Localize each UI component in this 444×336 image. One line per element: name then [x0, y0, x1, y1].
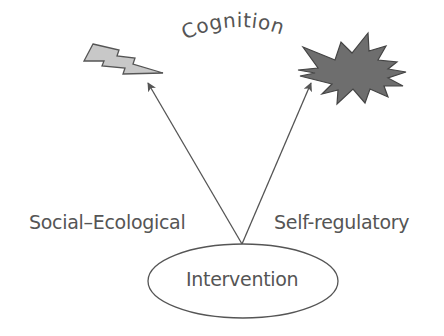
lightning-icon: [84, 44, 163, 74]
edge-label-self-regulatory: Self-regulatory: [274, 211, 409, 233]
starburst-icon: [298, 33, 406, 104]
cognition-title-path: Cognition: [178, 8, 288, 45]
intervention-label: Intervention: [186, 268, 298, 290]
edge-label-social-ecological: Social–Ecological: [29, 211, 185, 233]
cognition-title: Cognition: [178, 8, 288, 45]
